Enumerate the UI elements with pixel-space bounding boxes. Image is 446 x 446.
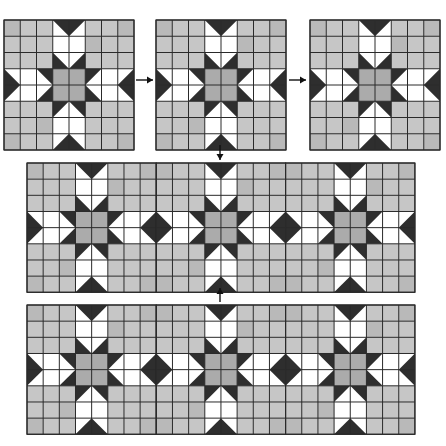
quilt-star-block <box>156 20 286 150</box>
quilt-star-block <box>310 20 440 150</box>
quilt-diagram-canvas <box>0 0 446 446</box>
quilt-row-panel <box>27 305 415 434</box>
quilt-row-panel <box>27 163 415 292</box>
quilt-diagram <box>0 0 446 446</box>
quilt-star-block <box>4 20 134 150</box>
arrow-right-icon <box>289 77 306 84</box>
arrow-right-icon <box>136 77 153 84</box>
